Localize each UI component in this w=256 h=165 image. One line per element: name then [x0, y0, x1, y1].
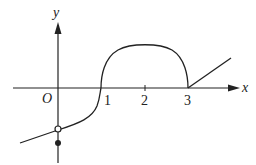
graph-canvas: y x O 1 2 3 — [0, 0, 256, 165]
ray-line — [188, 58, 231, 88]
origin-label: O — [42, 91, 52, 106]
y-axis-label: y — [51, 5, 60, 20]
open-circle-point — [55, 126, 61, 132]
x-tick-label-3: 3 — [184, 93, 191, 108]
function-graph-figure: y x O 1 2 3 — [0, 0, 256, 165]
x-axis-arrow-icon — [228, 85, 240, 92]
y-axis-arrow-icon — [55, 22, 62, 34]
x-axis-label: x — [241, 80, 249, 95]
left-curve — [20, 88, 101, 143]
x-tick-label-1: 1 — [104, 93, 111, 108]
semicircle-curve — [101, 45, 188, 88]
filled-dot-point — [55, 140, 61, 146]
x-tick-label-2: 2 — [141, 93, 148, 108]
